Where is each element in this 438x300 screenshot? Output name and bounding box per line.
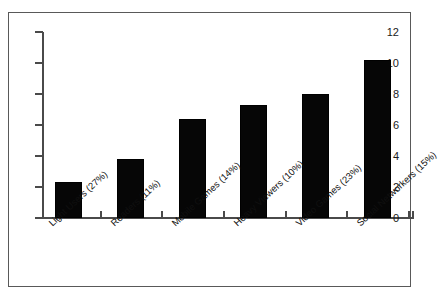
x-axis-end-cap [412, 211, 414, 219]
x-axis-tick [285, 211, 287, 218]
y-axis-tick [35, 155, 43, 157]
y-axis-tick-label: 12 [375, 27, 399, 38]
y-axis-tick [35, 217, 43, 219]
chart-frame: 121086420 Light Users (27%)Readers (11%)… [8, 12, 411, 287]
y-axis-tick [35, 186, 43, 188]
y-axis-tick [35, 93, 43, 95]
x-axis-tick [223, 211, 225, 218]
x-axis-tick [408, 211, 410, 218]
x-axis-labels: Light Users (27%)Readers (11%)Mobile Gam… [42, 221, 412, 296]
x-axis-tick [161, 211, 163, 218]
plot-area: 121086420 [42, 32, 412, 218]
x-axis-tick [100, 211, 102, 218]
y-axis-tick [35, 62, 43, 64]
x-axis-tick [346, 211, 348, 218]
y-axis-tick [35, 31, 43, 33]
y-axis-tick [35, 124, 43, 126]
